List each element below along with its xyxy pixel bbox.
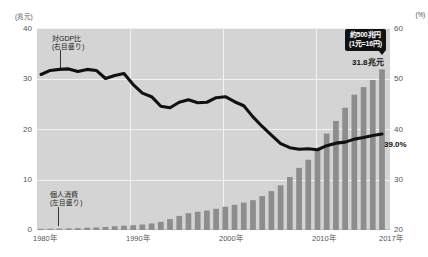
bar-2005 [269, 191, 275, 230]
bar-1986 [93, 227, 99, 230]
bar-2001 [232, 205, 238, 230]
x-label-1990: 1990年 [126, 232, 150, 243]
bar-2002 [241, 203, 247, 230]
bar-1985 [84, 228, 90, 230]
bar-2015 [361, 87, 367, 230]
bar-1994 [167, 219, 173, 230]
bar-2006 [278, 185, 284, 230]
bar-2010 [315, 149, 321, 230]
bar-1988 [112, 226, 118, 230]
chart-svg [37, 28, 390, 230]
right-tick-30: 30 [394, 175, 403, 184]
left-tick-10: 10 [4, 175, 32, 184]
x-label-2000: 2000年 [219, 232, 243, 243]
bars-group [38, 69, 385, 230]
bar-1989 [121, 226, 127, 230]
bar-1984 [75, 228, 81, 230]
bar-2004 [259, 196, 265, 230]
bar-2016 [370, 80, 376, 230]
bar-2008 [296, 168, 302, 230]
line-value-label: 39.0% [384, 140, 407, 149]
bar-value-label: 31.8兆元 [352, 56, 384, 67]
legend-consumption-pointer [58, 207, 59, 226]
bar-2000 [222, 207, 228, 230]
bar-2014 [351, 95, 357, 230]
legend-gdp-ratio-pointer [60, 50, 61, 68]
plot-area [37, 28, 390, 230]
x-label-2010: 2010年 [312, 232, 336, 243]
bar-1980 [38, 229, 44, 230]
bar-1987 [103, 227, 109, 230]
bar-1995 [176, 216, 182, 230]
bar-1990 [130, 225, 136, 230]
callout-tail-icon [378, 50, 386, 55]
bar-1997 [195, 212, 201, 230]
left-axis-unit: (兆元) [15, 11, 33, 21]
bar-1991 [140, 225, 146, 230]
callout-box: 約500兆円 (1元=16円) [345, 29, 386, 51]
callout-line-1: 約500兆円 [349, 31, 382, 40]
legend-gdp-ratio-axis: (右目盛り) [52, 43, 84, 51]
gdp-ratio-line [41, 69, 382, 150]
bar-1999 [213, 209, 219, 230]
bar-1982 [57, 229, 63, 230]
bar-2003 [250, 200, 256, 230]
bar-2009 [305, 160, 311, 230]
bar-2012 [333, 121, 339, 230]
left-tick-20: 20 [4, 125, 32, 134]
bar-1992 [149, 223, 155, 230]
bar-2017 [379, 69, 385, 230]
legend-consumption: 個人消費 (左目盛り) [50, 191, 82, 207]
callout-line-2: (1元=16円) [349, 40, 382, 49]
right-tick-60: 60 [394, 24, 403, 33]
left-tick-30: 30 [4, 74, 32, 83]
chart-container: (兆元) (%) 40 30 20 10 0 60 50 40 30 20 19… [0, 0, 428, 257]
x-label-1980: 1980年 [33, 232, 57, 243]
legend-gdp-ratio: 対GDP比 (右目盛り) [52, 35, 84, 51]
bar-1981 [47, 229, 53, 230]
left-tick-40: 40 [4, 24, 32, 33]
x-label-2017: 2017年 [379, 232, 403, 243]
left-tick-0: 0 [4, 225, 32, 234]
bar-1996 [186, 213, 192, 230]
legend-gdp-ratio-title: 対GDP比 [52, 35, 84, 43]
right-axis-unit: (%) [415, 11, 425, 18]
bar-1983 [66, 228, 72, 230]
bar-2007 [287, 177, 293, 230]
bar-2013 [342, 108, 348, 230]
right-tick-40: 40 [394, 125, 403, 134]
bar-1998 [204, 211, 210, 230]
right-tick-50: 50 [394, 74, 403, 83]
bar-1993 [158, 222, 164, 230]
legend-consumption-axis: (左目盛り) [50, 199, 82, 207]
legend-consumption-title: 個人消費 [50, 191, 82, 199]
